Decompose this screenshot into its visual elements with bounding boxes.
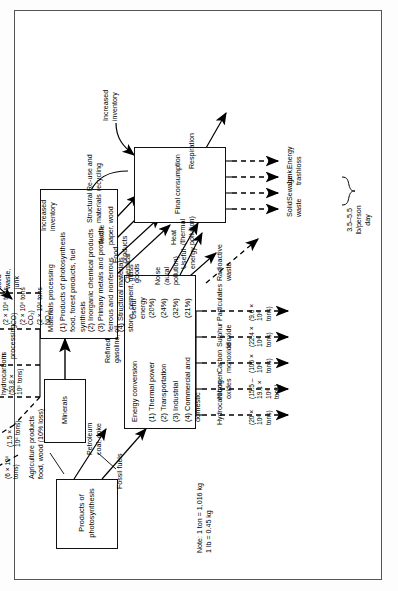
label-increased-inventory-materials: Increased inventory bbox=[40, 200, 58, 231]
label-agriculture-products: Agriculture products food, wood (10% los… bbox=[28, 409, 46, 479]
label-refined-gasoline-oil: Refined gasoline, oil bbox=[104, 326, 122, 363]
mp-emission-inorganic-name: Inorganic wastes bbox=[0, 421, 2, 447]
label-fossil-fuels: Fossil fuels bbox=[116, 454, 125, 489]
label-reuse-recycling: Re-use and recycling bbox=[86, 154, 104, 191]
consumption-waste-junk: Junk, trash bbox=[286, 171, 304, 185]
energy-emission-lines bbox=[202, 311, 288, 415]
energy-pct-2: (24%) bbox=[159, 298, 169, 318]
energy-pct-1: (20%) bbox=[147, 298, 157, 318]
diagram-canvas: Products of photosynthesis Minerals Ener… bbox=[20, 15, 376, 575]
figure-page: Products of photosynthesis Minerals Ener… bbox=[0, 0, 398, 591]
consumption-waste-energy-loss: Energy loss bbox=[286, 155, 304, 169]
emission-particulates-amount: (9.6 × 10⁶ tons) bbox=[248, 297, 273, 321]
emission-sulphur-dioxide-name: Sulphur dioxide bbox=[216, 327, 234, 347]
box-photosynthesis-label: Products of photosynthesis bbox=[77, 482, 97, 544]
box-final-consumption: Final consumption bbox=[134, 147, 226, 223]
leader-agriculture bbox=[50, 453, 64, 474]
mp-emission-gases-amount: (2 × 10⁶ tons CO) (2 × 10⁶ tons CO₂) (2 … bbox=[2, 285, 53, 325]
final-consumption-label: Final consumption bbox=[173, 150, 183, 218]
arrow-increased-inventory-consumption bbox=[116, 123, 134, 155]
label-structural-materials: Structural materials bbox=[86, 193, 104, 223]
emission-particulates-name: Particulates bbox=[216, 301, 225, 321]
energy-conversion-title: Energy conversion bbox=[130, 361, 140, 422]
box-products-of-photosynthesis: Products of photosynthesis bbox=[56, 479, 118, 549]
emission-carbon-monoxide-name: Carbon monoxide bbox=[216, 353, 234, 373]
label-petroleum-coal-coke: Petroleum coal, coke bbox=[86, 423, 104, 455]
figure-note: Note: 1 ton = 1,016 kg 1 lb = 0.45 kg bbox=[196, 463, 214, 553]
emission-sulphur-dioxide-amount: (22.4 × 10⁶ tons) bbox=[248, 323, 273, 347]
emission-nitrogen-oxides-name: Nitrogen oxides bbox=[216, 379, 234, 399]
materials-item-1: (1) Products of photosynthesis food, for… bbox=[58, 190, 87, 332]
energy-item-4: (4) Commercial and domestic bbox=[183, 357, 203, 422]
label-increased-inventory-consumption: Increased inventory bbox=[102, 90, 120, 121]
rotated-diagram-wrapper: Products of photosynthesis Minerals Ener… bbox=[20, 15, 376, 575]
figure-frame: Products of photosynthesis Minerals Ener… bbox=[14, 10, 382, 580]
energy-item-1: (1) Thermal power bbox=[147, 362, 157, 422]
leader-petroleum bbox=[98, 453, 116, 469]
box-minerals-label: Minerals bbox=[60, 382, 70, 438]
emission-carbon-monoxide-amount: (106 × 10⁶ tons) bbox=[248, 349, 273, 373]
label-per-capita-waste: 3.5–5.5 lb/person day bbox=[346, 203, 373, 237]
mp-emission-particulates-amount: (6 × 10⁶ tons) bbox=[4, 453, 21, 479]
mp-emission-organic-amount: (53.8 × 10⁶ tons) bbox=[8, 365, 25, 395]
label-radioactive-waste: Radioactive waste bbox=[216, 244, 234, 281]
mp-emission-chemicals-lost-name: Chemicals lost in processing bbox=[0, 327, 18, 359]
emission-nitrogen-oxides-amount: (15.5 – 19.1 × 10⁶ tons) bbox=[248, 375, 282, 399]
energy-item-2: (2) Transportation bbox=[159, 364, 169, 422]
energy-item-3: (3) Industrial bbox=[171, 381, 181, 422]
energy-pct-4: (21%) bbox=[183, 298, 193, 318]
mp-emission-inorganic-amount: (1.5 × 10⁶ tons) bbox=[6, 419, 23, 447]
consumption-waste-sewage: Sewage bbox=[286, 187, 295, 201]
label-noise: Noise (aural pollution) bbox=[154, 256, 181, 285]
consumption-waste-lines bbox=[232, 161, 278, 209]
energy-pct-3: (32%) bbox=[171, 298, 181, 318]
mp-emission-scrap-name: Scrap, solid waste, junk bbox=[0, 255, 22, 289]
waste-brace bbox=[342, 177, 355, 205]
label-useful-energy-consumption: Useful energy bbox=[180, 247, 198, 269]
emission-hydrocarbons-name: Hydrocarbons bbox=[216, 405, 225, 425]
label-useful-energy-materials: Useful energy bbox=[130, 297, 148, 319]
label-heat: Heat (thermal pollution) bbox=[170, 216, 197, 245]
box-minerals: Minerals bbox=[44, 379, 86, 443]
consumption-waste-solid: Solid waste bbox=[286, 203, 304, 217]
label-respiration: Respiration bbox=[188, 133, 197, 169]
emission-hydrocarbons-amount: (20 × 10⁶ tons) bbox=[248, 403, 273, 425]
